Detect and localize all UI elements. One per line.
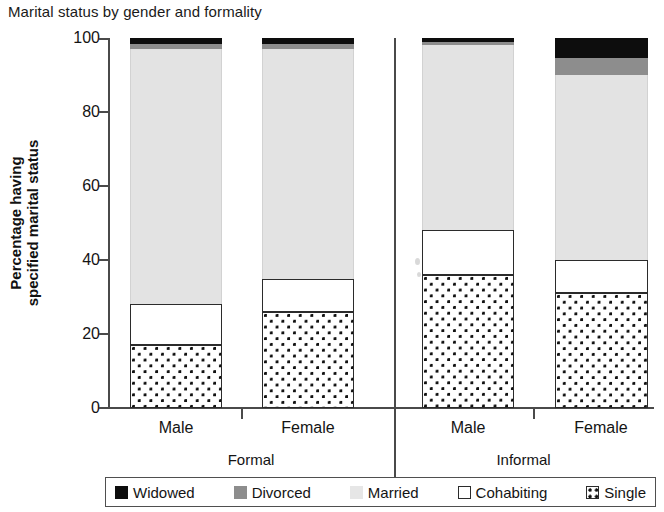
- chart-container: Marital status by gender and formality P…: [0, 0, 664, 512]
- y-axis-tick: [99, 38, 108, 40]
- bar-segment-single[interactable]: [555, 293, 648, 408]
- x-axis-tick: [241, 409, 243, 419]
- x-axis-label-informal-male: Male: [422, 419, 514, 437]
- y-axis-tick: [99, 259, 108, 261]
- bar-segment-married[interactable]: [555, 75, 648, 260]
- bar-segment-cohabiting[interactable]: [555, 260, 648, 293]
- legend-label-widowed: Widowed: [133, 484, 195, 501]
- bar-segment-single[interactable]: [422, 275, 514, 408]
- bar-segment-widowed[interactable]: [555, 38, 648, 58]
- cohabiting-swatch-icon: [458, 486, 471, 499]
- y-tick-label-100: 100: [56, 29, 100, 47]
- y-tick-label-20: 20: [56, 325, 100, 343]
- y-axis-tick: [99, 407, 108, 409]
- legend-item-widowed[interactable]: Widowed: [115, 484, 195, 501]
- bar-segment-married[interactable]: [130, 49, 222, 304]
- divorced-swatch-icon: [234, 486, 247, 499]
- bar-segment-single[interactable]: [262, 312, 354, 408]
- y-axis-tick: [99, 185, 108, 187]
- y-axis-tick: [99, 111, 108, 113]
- y-axis-tick: [99, 333, 108, 335]
- bar-segment-married[interactable]: [262, 49, 354, 278]
- chart-title: Marital status by gender and formality: [8, 3, 262, 20]
- widowed-swatch-icon: [115, 486, 128, 499]
- scan-artifact: [415, 258, 420, 265]
- legend-item-married[interactable]: Married: [350, 484, 419, 501]
- bar-segment-married[interactable]: [422, 45, 514, 230]
- legend-item-cohabiting[interactable]: Cohabiting: [458, 484, 548, 501]
- single-swatch-icon: [586, 486, 599, 499]
- y-axis-title-line1: Percentage having: [7, 156, 24, 289]
- x-axis-label-formal-male: Male: [130, 419, 222, 437]
- chart-legend: Widowed Divorced Married Cohabiting Sing…: [105, 477, 656, 507]
- y-tick-label-40: 40: [56, 251, 100, 269]
- y-tick-label-0: 0: [56, 399, 100, 417]
- bar-segment-single[interactable]: [130, 345, 222, 408]
- bar-segment-cohabiting[interactable]: [130, 304, 222, 345]
- legend-item-divorced[interactable]: Divorced: [234, 484, 311, 501]
- x-axis-group-label-formal: Formal: [108, 451, 394, 468]
- y-axis-line: [108, 38, 110, 409]
- legend-label-cohabiting: Cohabiting: [476, 484, 548, 501]
- x-axis-tick: [533, 409, 535, 419]
- bar-formal-male[interactable]: [130, 38, 222, 408]
- x-axis-group-label-informal: Informal: [394, 451, 653, 468]
- plot-area: Male Female Male Female Formal Informal: [108, 38, 653, 408]
- bar-segment-cohabiting[interactable]: [262, 279, 354, 312]
- y-tick-label-60: 60: [56, 177, 100, 195]
- x-axis-label-informal-female: Female: [551, 419, 651, 437]
- group-divider: [394, 38, 396, 408]
- x-axis-label-formal-female: Female: [258, 419, 358, 437]
- bar-formal-female[interactable]: [262, 38, 354, 408]
- legend-label-married: Married: [368, 484, 419, 501]
- married-swatch-icon: [350, 486, 363, 499]
- legend-label-divorced: Divorced: [252, 484, 311, 501]
- bar-segment-divorced[interactable]: [555, 58, 648, 75]
- scan-artifact: [417, 272, 421, 277]
- bar-informal-male[interactable]: [422, 38, 514, 408]
- y-tick-label-80: 80: [56, 103, 100, 121]
- legend-item-single[interactable]: Single: [586, 484, 646, 501]
- y-axis-title: Percentage having specified marital stat…: [2, 38, 46, 408]
- legend-label-single: Single: [604, 484, 646, 501]
- bar-informal-female[interactable]: [555, 38, 648, 408]
- bar-segment-cohabiting[interactable]: [422, 230, 514, 274]
- y-axis-title-line2: specified marital status: [24, 140, 41, 307]
